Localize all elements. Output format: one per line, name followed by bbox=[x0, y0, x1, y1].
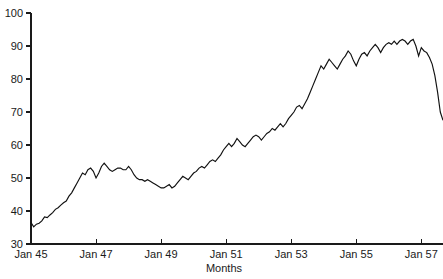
y-tick-label: 100 bbox=[5, 7, 23, 19]
y-axis-tick-labels: 30405060708090100 bbox=[5, 7, 23, 250]
x-axis-ticks bbox=[31, 239, 421, 244]
x-tick-label: Jan 47 bbox=[80, 248, 113, 260]
line-chart: 30405060708090100 Jan 45Jan 47Jan 49Jan … bbox=[0, 0, 443, 279]
y-axis-ticks bbox=[26, 13, 31, 244]
x-axis-title: Months bbox=[206, 262, 243, 274]
plot-area bbox=[31, 39, 443, 226]
y-tick-label: 40 bbox=[11, 205, 23, 217]
y-axis: 30405060708090100 bbox=[5, 7, 31, 250]
x-tick-label: Jan 57 bbox=[405, 248, 438, 260]
y-tick-label: 90 bbox=[11, 40, 23, 52]
y-tick-label: 60 bbox=[11, 139, 23, 151]
y-tick-label: 70 bbox=[11, 106, 23, 118]
x-tick-label: Jan 55 bbox=[340, 248, 373, 260]
data-series-line bbox=[31, 39, 443, 226]
x-tick-label: Jan 49 bbox=[145, 248, 178, 260]
y-tick-label: 50 bbox=[11, 172, 23, 184]
x-tick-label: Jan 45 bbox=[14, 248, 47, 260]
chart-canvas: 30405060708090100 Jan 45Jan 47Jan 49Jan … bbox=[0, 0, 443, 279]
x-axis: Jan 45Jan 47Jan 49Jan 51Jan 53Jan 55Jan … bbox=[14, 239, 443, 260]
y-tick-label: 80 bbox=[11, 73, 23, 85]
x-axis-tick-labels: Jan 45Jan 47Jan 49Jan 51Jan 53Jan 55Jan … bbox=[14, 248, 437, 260]
x-tick-label: Jan 53 bbox=[275, 248, 308, 260]
x-tick-label: Jan 51 bbox=[210, 248, 243, 260]
